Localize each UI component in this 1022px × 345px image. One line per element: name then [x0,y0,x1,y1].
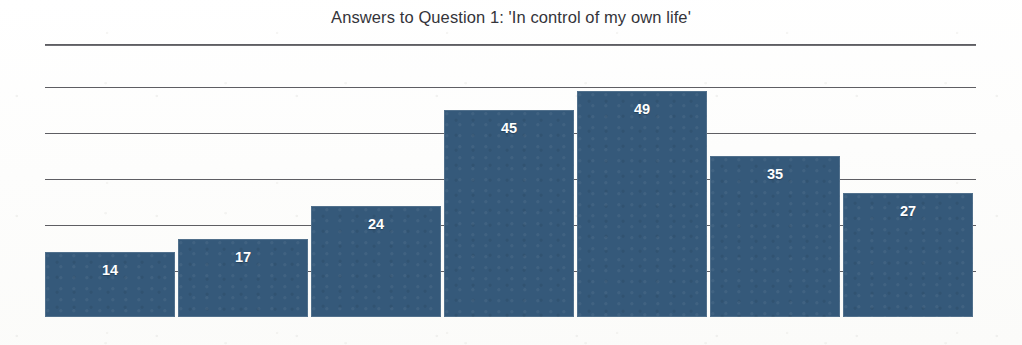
bar-slot: 27 [843,193,973,317]
chart-page: Answers to Question 1: 'In control of my… [0,0,1022,345]
bar[interactable]: 35 [710,156,840,317]
bar[interactable]: 49 [577,91,707,317]
bar-value-label: 49 [577,101,707,117]
bar[interactable]: 24 [311,206,441,317]
bar-value-label: 27 [843,203,973,219]
bar-slot: 49 [577,91,707,317]
bar[interactable]: 14 [45,252,175,317]
bar[interactable]: 45 [444,110,574,317]
bar[interactable]: 27 [843,193,973,317]
bar-slot: 45 [444,110,574,317]
bar-slot: 17 [178,239,308,317]
bar-slot: 14 [45,252,175,317]
bar-value-label: 17 [178,249,308,265]
plot-area: 14172445493527 [45,0,976,345]
bar-value-label: 45 [444,120,574,136]
bar-value-label: 35 [710,166,840,182]
bar[interactable]: 17 [178,239,308,317]
bar-value-label: 14 [45,262,175,278]
bar-slot: 24 [311,206,441,317]
bar-value-label: 24 [311,216,441,232]
bar-slot: 35 [710,156,840,317]
